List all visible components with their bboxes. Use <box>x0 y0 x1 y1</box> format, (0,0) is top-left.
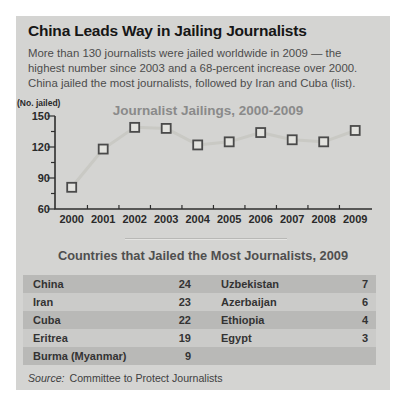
series-line <box>72 127 356 187</box>
country-value-cell: 7 <box>336 275 368 293</box>
country-value-cell <box>336 347 368 365</box>
y-tick-label: 60 <box>38 203 50 215</box>
x-tick-label: 2000 <box>59 213 83 225</box>
table-title: Countries that Jailed the Most Journalis… <box>16 248 390 263</box>
country-value-cell: 6 <box>336 293 368 311</box>
country-value-cell: 3 <box>336 329 368 347</box>
x-tick-label: 2008 <box>311 213 335 225</box>
data-point-marker <box>351 126 360 135</box>
x-tick-label: 2006 <box>248 213 272 225</box>
data-point-marker <box>67 183 76 192</box>
jailings-line-chart: Journalist Jailings, 2000-2009(No. jaile… <box>16 96 390 238</box>
country-value-cell: 19 <box>151 329 191 347</box>
data-point-marker <box>99 145 108 154</box>
source-label: Source: <box>28 372 65 384</box>
infographic-card: China Leads Way in Jailing Journalists M… <box>16 16 390 390</box>
country-value-cell: 22 <box>151 311 191 329</box>
country-name-cell: China <box>33 275 151 293</box>
subtitle-line: China jailed the most journalists, follo… <box>28 76 357 91</box>
data-point-marker <box>319 137 328 146</box>
x-tick-label: 2003 <box>154 213 178 225</box>
country-name-cell: Eritrea <box>33 329 151 347</box>
source-line: Source:Committee to Protect Journalists <box>28 372 223 384</box>
y-tick-label: 150 <box>32 110 50 122</box>
screenshot-root: China Leads Way in Jailing Journalists M… <box>0 0 397 400</box>
country-name-cell: Azerbaijan <box>221 293 336 311</box>
column-gap <box>191 347 221 365</box>
country-value-cell: 24 <box>151 275 191 293</box>
country-value-cell: 23 <box>151 293 191 311</box>
table-row: Burma (Myanmar)9 <box>23 347 376 365</box>
axes <box>55 116 372 209</box>
data-point-marker <box>256 128 265 137</box>
data-point-marker <box>130 123 139 132</box>
country-name-cell: Iran <box>33 293 151 311</box>
x-tick-label: 2001 <box>91 213 115 225</box>
x-tick-label: 2005 <box>217 213 241 225</box>
country-name-cell: Egypt <box>221 329 336 347</box>
column-gap <box>191 293 221 311</box>
country-name-cell: Uzbekistan <box>221 275 336 293</box>
subtitle-line: More than 130 journalists were jailed wo… <box>28 46 357 61</box>
subtitle: More than 130 journalists were jailed wo… <box>28 46 357 92</box>
headline: China Leads Way in Jailing Journalists <box>28 22 307 40</box>
country-name-cell: Ethiopia <box>221 311 336 329</box>
y-tick-label: 120 <box>32 141 50 153</box>
x-tick-label: 2004 <box>185 213 210 225</box>
table-row: Eritrea19Egypt3 <box>23 329 376 347</box>
data-point-marker <box>193 140 202 149</box>
column-gap <box>191 275 221 293</box>
country-value-cell: 4 <box>336 311 368 329</box>
y-axis-unit-label: (No. jailed) <box>17 98 61 108</box>
countries-table: China24Uzbekistan7Iran23Azerbaijan6Cuba2… <box>23 275 376 365</box>
subtitle-line: highest number since 2003 and a 68-perce… <box>28 61 357 76</box>
data-point-marker <box>225 137 234 146</box>
x-tick-label: 2007 <box>280 213 304 225</box>
country-value-cell: 9 <box>151 347 191 365</box>
line-chart-svg: Journalist Jailings, 2000-2009(No. jaile… <box>16 96 390 238</box>
source-text: Committee to Protect Journalists <box>70 372 223 384</box>
section-divider <box>125 238 287 239</box>
data-point-marker <box>162 124 171 133</box>
table-row: Iran23Azerbaijan6 <box>23 293 376 311</box>
table-row: Cuba22Ethiopia4 <box>23 311 376 329</box>
country-name-cell: Burma (Myanmar) <box>33 347 151 365</box>
column-gap <box>191 311 221 329</box>
y-tick-label: 90 <box>38 172 50 184</box>
chart-title: Journalist Jailings, 2000-2009 <box>113 103 304 118</box>
column-gap <box>191 329 221 347</box>
country-name-cell <box>221 347 336 365</box>
table-row: China24Uzbekistan7 <box>23 275 376 293</box>
x-tick-label: 2002 <box>122 213 146 225</box>
x-tick-label: 2009 <box>343 213 367 225</box>
country-name-cell: Cuba <box>33 311 151 329</box>
data-point-marker <box>288 135 297 144</box>
